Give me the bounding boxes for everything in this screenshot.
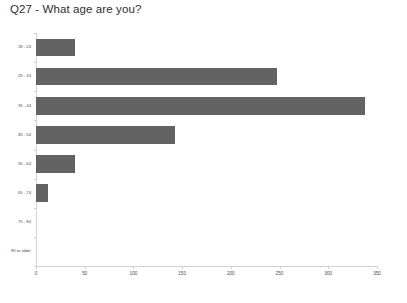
x-tick-mark	[377, 266, 378, 269]
bar	[36, 68, 277, 85]
x-axis-line	[36, 266, 377, 267]
bar-chart: Q27 - What age are you? 18 - 2425 - 3435…	[0, 0, 407, 303]
bar-row: 35 - 44	[36, 97, 377, 114]
x-tick-mark	[85, 266, 86, 269]
x-tick-label: 0	[35, 272, 38, 277]
y-tick-mark	[34, 179, 36, 180]
y-tick-mark	[34, 150, 36, 151]
bar	[36, 97, 365, 114]
bar-row: 85 or older	[36, 243, 377, 260]
x-tick-mark	[231, 266, 232, 269]
bar-row: 18 - 24	[36, 39, 377, 56]
x-tick-label: 100	[130, 272, 138, 277]
x-tick-mark	[182, 266, 183, 269]
y-tick-label: 45 - 54	[18, 133, 31, 137]
chart-title: Q27 - What age are you?	[10, 3, 141, 15]
y-tick-mark	[34, 91, 36, 92]
y-tick-label: 75 - 84	[18, 220, 31, 224]
y-tick-mark	[34, 62, 36, 63]
x-tick-label: 50	[82, 272, 87, 277]
y-tick-label: 65 - 74	[18, 191, 31, 195]
x-tick-label: 300	[324, 272, 332, 277]
x-tick-label: 200	[227, 272, 235, 277]
y-tick-label: 55 - 64	[18, 162, 31, 166]
bar	[36, 155, 75, 172]
bar-row: 45 - 54	[36, 126, 377, 143]
x-tick-label: 250	[276, 272, 284, 277]
y-tick-label: 35 - 44	[18, 104, 31, 108]
x-tick-label: 350	[373, 272, 381, 277]
y-tick-mark	[34, 33, 36, 34]
y-tick-mark	[34, 120, 36, 121]
bar-row: 65 - 74	[36, 184, 377, 201]
bar-row: 55 - 64	[36, 155, 377, 172]
x-tick-label: 150	[178, 272, 186, 277]
bar	[36, 184, 48, 201]
y-tick-mark	[34, 208, 36, 209]
bar-row: 75 - 84	[36, 214, 377, 231]
x-tick-mark	[328, 266, 329, 269]
y-tick-label: 18 - 24	[18, 45, 31, 49]
y-tick-label: 85 or older	[11, 249, 31, 253]
x-tick-mark	[280, 266, 281, 269]
bar	[36, 39, 75, 56]
x-tick-mark	[133, 266, 134, 269]
bar-row: 25 - 34	[36, 68, 377, 85]
plot-area: 18 - 2425 - 3435 - 4445 - 5455 - 6465 - …	[36, 33, 377, 266]
bar	[36, 126, 175, 143]
y-tick-mark	[34, 237, 36, 238]
y-tick-label: 25 - 34	[18, 74, 31, 78]
x-tick-mark	[36, 266, 37, 269]
